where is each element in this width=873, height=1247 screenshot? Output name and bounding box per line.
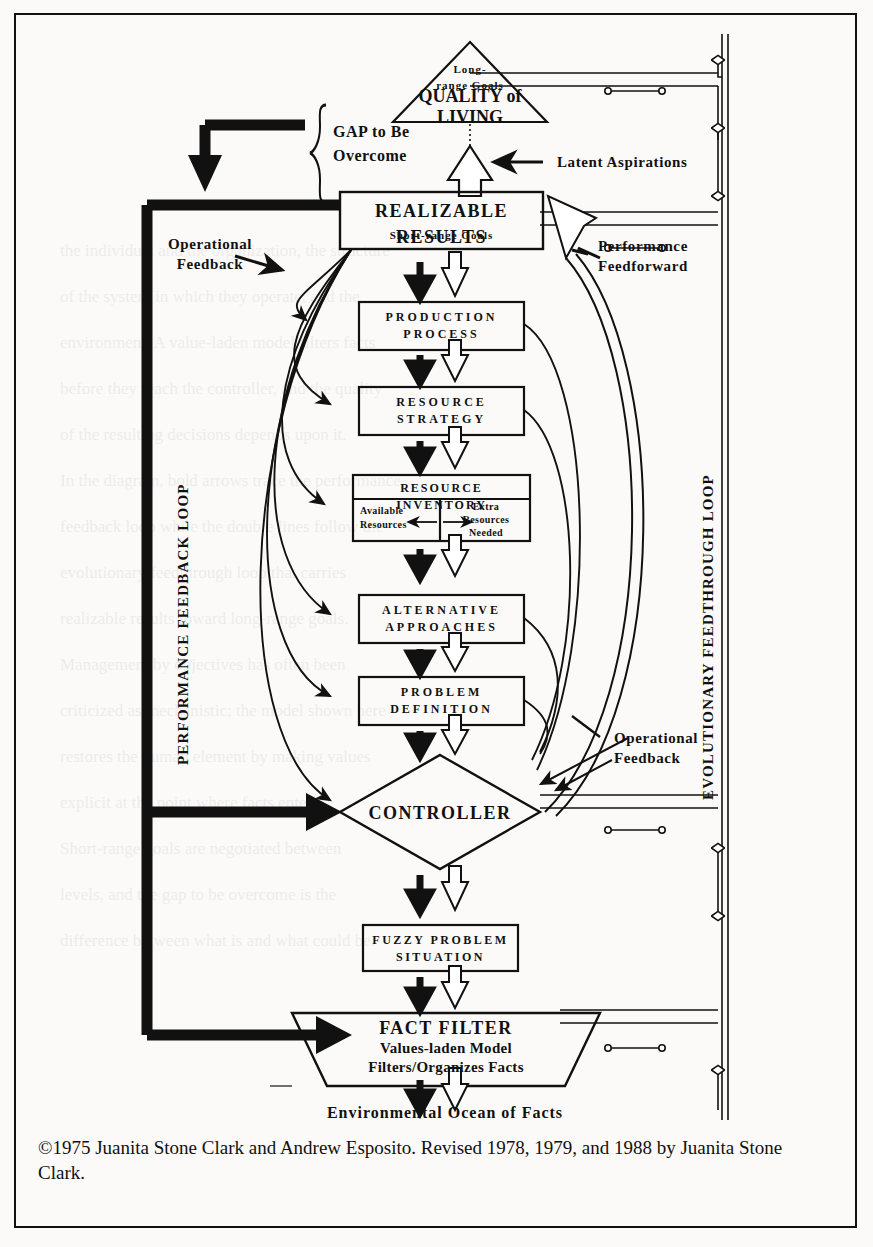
production-process-label: PRODUCTION PROCESS — [360, 309, 523, 344]
op-fb-right-line2: Feedback — [614, 748, 698, 768]
perf-ff-line2: Feedforward — [598, 256, 688, 276]
resource-strategy-line2: STRATEGY — [360, 411, 523, 428]
available-resources-line1: Available — [360, 504, 442, 518]
alternative-approaches-line1: ALTERNATIVE — [360, 602, 523, 619]
performance-feedforward-pointer — [572, 248, 600, 258]
operational-feedback-left-label: Operational Feedback — [168, 234, 252, 275]
latent-aspirations-label: Latent Aspirations — [557, 152, 687, 172]
copyright-caption: ©1975 Juanita Stone Clark and Andrew Esp… — [38, 1135, 828, 1185]
alternative-approaches-label: ALTERNATIVE APPROACHES — [360, 602, 523, 637]
problem-definition-line2: DEFINITION — [360, 701, 523, 718]
environmental-ocean-label: Environmental Ocean of Facts — [280, 1104, 610, 1122]
flow-arrow-pairs — [409, 252, 468, 1112]
performance-feedforward-label: Performance Feedforward — [598, 236, 688, 277]
gap-to-be-overcome-label: GAP to Be Overcome — [333, 120, 463, 168]
triangle-title-line1: QUALITY of — [392, 86, 548, 107]
extra-resources-line2: Resources — [443, 513, 529, 526]
resource-strategy-line1: RESOURCE — [360, 394, 523, 411]
extra-resources-line3: Needed — [443, 526, 529, 539]
fact-filter-line2: Values-laden Model — [330, 1039, 562, 1058]
op-fb-left-line1: Operational — [168, 234, 252, 254]
operational-feedback-right-pointer — [572, 716, 600, 737]
operational-feedback-right-label: Operational Feedback — [614, 728, 698, 769]
op-fb-right-line1: Operational — [614, 728, 698, 748]
alternative-approaches-line2: APPROACHES — [360, 619, 523, 636]
resource-inventory-available: Available Resources — [356, 504, 442, 531]
resource-strategy-label: RESOURCE STRATEGY — [360, 394, 523, 429]
problem-definition-label: PROBLEM DEFINITION — [360, 684, 523, 719]
extra-resources-line1: Extra — [443, 500, 529, 513]
operational-feedback-fan-right — [524, 324, 580, 770]
production-process-line2: PROCESS — [360, 326, 523, 343]
triangle-small-label-line1: Long- — [420, 62, 520, 78]
fuzzy-line1: FUZZY PROBLEM — [364, 932, 517, 949]
performance-feedback-loop-label: PERFORMANCE FEEDBACK LOOP — [175, 483, 192, 765]
gap-label-line1: GAP to Be — [333, 120, 463, 144]
fuzzy-problem-situation-label: FUZZY PROBLEM SITUATION — [364, 932, 517, 967]
evolutionary-feedthrough-loop-label: EVOLUTIONARY FEEDTHROUGH LOOP — [700, 474, 717, 800]
fact-filter-label: FACT FILTER Values-laden Model Filters/O… — [330, 1018, 562, 1077]
op-fb-left-line2: Feedback — [168, 254, 252, 274]
performance-feedforward-arrow — [545, 196, 643, 816]
operational-feedback-fan-left — [260, 250, 351, 800]
production-process-line1: PRODUCTION — [360, 309, 523, 326]
problem-definition-line1: PROBLEM — [360, 684, 523, 701]
gap-label-line2: Overcome — [333, 144, 463, 168]
perf-ff-line1: Performance — [598, 236, 688, 256]
available-resources-line2: Resources — [360, 518, 442, 532]
fuzzy-line2: SITUATION — [364, 949, 517, 966]
fact-filter-line1: FACT FILTER — [330, 1018, 562, 1039]
realizable-results-subtitle: Short-range Goals — [341, 228, 542, 244]
controller-label: CONTROLLER — [360, 800, 520, 826]
resource-inventory-extra: Extra Resources Needed — [443, 500, 529, 539]
evolutionary-feedthrough-trunk — [722, 34, 728, 1120]
gap-brace — [310, 105, 326, 203]
fact-filter-line3: Filters/Organizes Facts — [330, 1058, 562, 1077]
